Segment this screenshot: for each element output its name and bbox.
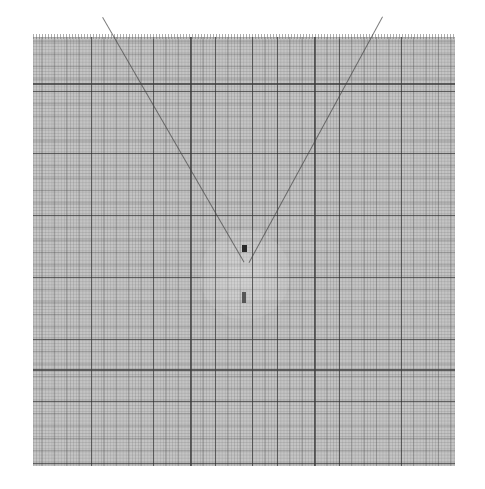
major-horizontal-line-1 <box>33 83 455 85</box>
center-mark-upper <box>242 245 247 252</box>
center-highlight <box>200 230 290 320</box>
major-vertical-line-1 <box>190 37 192 466</box>
center-mark-lower <box>242 292 246 303</box>
major-vertical-line-3 <box>314 37 316 466</box>
major-vertical-line-2 <box>252 37 253 466</box>
major-horizontal-line-2 <box>33 369 455 371</box>
sheet-top-edge <box>33 34 455 39</box>
